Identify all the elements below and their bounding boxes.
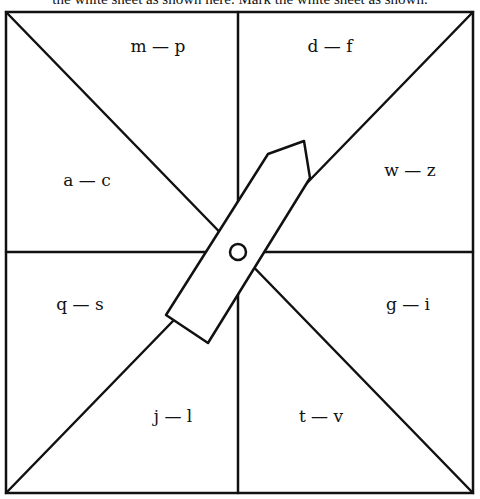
letter-wheel-diagram bbox=[0, 0, 480, 499]
section-label-left-upper: a — c bbox=[63, 170, 110, 190]
section-label-bottom-right: t — v bbox=[299, 406, 343, 426]
pivot-hole-icon bbox=[230, 244, 246, 260]
section-label-right-lower: g — i bbox=[386, 294, 430, 314]
section-label-bottom-left: j — l bbox=[154, 406, 193, 426]
section-label-top-left: m — p bbox=[131, 36, 186, 56]
section-label-top-right: d — f bbox=[308, 36, 353, 56]
section-label-right-upper: w — z bbox=[384, 160, 435, 180]
section-label-left-lower: q — s bbox=[56, 294, 103, 314]
